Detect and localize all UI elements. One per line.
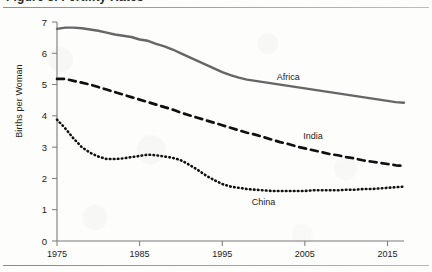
series-line-china [57,120,404,191]
x-tick-label: 2015 [377,249,397,259]
y-tick-label: 2 [42,173,47,184]
x-axis-ticks: 19751985199520052015 [47,241,398,259]
x-tick-label: 2005 [295,249,315,259]
series-lines [57,28,404,191]
series-label-china: China [252,197,276,207]
y-tick-label: 1 [42,204,47,215]
y-tick-label: 7 [42,17,47,28]
axes [57,22,404,241]
y-tick-label: 4 [42,110,47,121]
chart-page: Figure 3. Fertility Rates 01234567 19751… [0,0,432,272]
x-tick-label: 1995 [212,249,232,259]
y-tick-label: 3 [42,142,47,153]
x-tick-label: 1985 [130,249,150,259]
series-line-india [57,79,404,166]
series-label-africa: Africa [277,72,300,82]
y-axis-ticks: 01234567 [42,17,57,247]
y-tick-label: 0 [42,236,47,247]
series-label-india: India [303,131,323,141]
y-axis-title: Births per Woman [14,36,24,166]
chart-svg: 01234567 19751985199520052015 AfricaIndi… [0,0,432,272]
x-tick-label: 1975 [47,249,67,259]
y-tick-label: 5 [42,79,47,90]
fertility-line-chart: 01234567 19751985199520052015 AfricaIndi… [0,0,432,272]
series-inline-labels: AfricaIndiaChina [252,72,323,207]
y-tick-label: 6 [42,48,47,59]
